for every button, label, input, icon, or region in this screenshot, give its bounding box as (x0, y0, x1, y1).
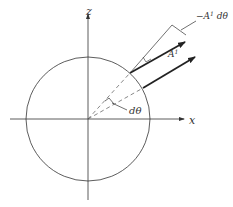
change-label-base: −A (196, 11, 211, 21)
change-leader (181, 21, 196, 30)
change-label: −A1 dθ (196, 10, 228, 21)
dashed-radius-1 (88, 73, 130, 119)
vector-label: A1 (167, 48, 178, 59)
x-axis-label: x (189, 114, 196, 127)
z-axis-label: z (85, 5, 92, 18)
angle-label: dθ (129, 105, 141, 116)
change-label-suffix: dθ (214, 11, 229, 21)
angle-leader (112, 103, 127, 110)
vector-label-sup: 1 (175, 48, 179, 55)
diagram-canvas: x z dθ −A1 dθ A1 (0, 0, 233, 207)
